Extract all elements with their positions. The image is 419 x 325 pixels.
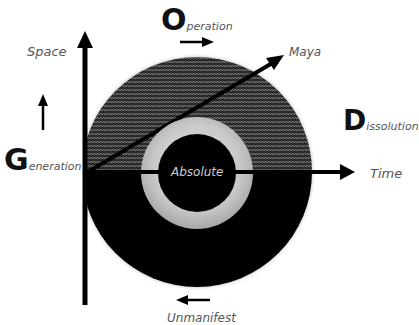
generation-label: Generation xyxy=(4,145,81,175)
generation-rest: eneration xyxy=(29,160,82,173)
dissolution-label: Dissolution xyxy=(343,107,419,135)
unmanifest-label: Unmanifest xyxy=(167,312,236,324)
dissolution-rest: issolution xyxy=(366,120,418,133)
operation-initial: O xyxy=(161,5,187,35)
dissolution-initial: D xyxy=(343,107,366,135)
time-axis-arrowhead xyxy=(340,164,355,180)
space-indicator-arrowhead xyxy=(38,94,48,106)
operation-label: Operation xyxy=(161,5,233,35)
generation-initial: G xyxy=(4,145,29,175)
operation-rest: peration xyxy=(187,20,233,33)
space-label: Space xyxy=(27,45,67,58)
time-label: Time xyxy=(370,167,402,180)
maya-label: Maya xyxy=(289,46,321,58)
unmanifest-indicator-arrowhead xyxy=(176,295,188,305)
space-axis-arrowhead xyxy=(77,31,93,48)
maya-arrow-head xyxy=(266,55,284,70)
absolute-label: Absolute xyxy=(171,166,223,178)
operation-indicator-arrowhead xyxy=(202,37,214,47)
